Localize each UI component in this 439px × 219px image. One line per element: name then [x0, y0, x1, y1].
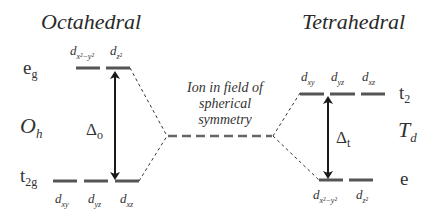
oh-eg-label: eg — [23, 57, 37, 82]
oh-t2g-orbital-label-3: dxz — [120, 191, 133, 209]
td-symmetry-label: Td — [398, 117, 417, 146]
td-t2-orbital-label-1: dxy — [301, 69, 315, 87]
oh-t2g-connector — [139, 136, 167, 181]
oh-t2g-label: t2g — [20, 165, 37, 190]
oh-symmetry-label: Oh — [20, 113, 42, 142]
td-e-orbital-label-2: dz² — [356, 187, 368, 205]
td-e-connector — [273, 136, 319, 180]
td-t2-orbital-label-3: dxz — [362, 69, 375, 87]
oh-eg-orbital-label-1: dx²−y² — [70, 43, 94, 61]
oh-t2g-orbital-label-1: dxy — [55, 191, 69, 209]
td-t2-label: t2 — [399, 82, 410, 107]
delta-t-label: Δt — [336, 128, 350, 151]
caption-line-1: Ion in field of — [170, 80, 280, 96]
oh-t2g-orbital-label-2: dyz — [88, 191, 101, 209]
td-t2-orbital-label-2: dyz — [331, 69, 344, 87]
td-e-label: e — [400, 168, 408, 193]
oh-eg-orbital-label-2: dz² — [110, 43, 122, 61]
caption-line-2: spherical — [170, 96, 280, 112]
tetrahedral-title: Tetrahedral — [302, 9, 405, 35]
spherical-field-caption: Ion in field of spherical symmetry — [170, 80, 280, 128]
td-e-orbital-label-1: dx²−y² — [313, 187, 337, 205]
delta-o-label: Δo — [86, 120, 103, 143]
octahedral-title: Octahedral — [41, 9, 141, 35]
caption-line-3: symmetry — [170, 112, 280, 128]
oh-eg-connector — [130, 68, 167, 136]
